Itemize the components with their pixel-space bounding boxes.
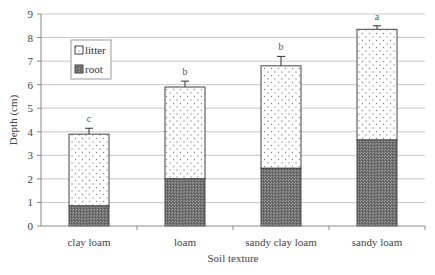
bar-root (165, 179, 205, 226)
y-tick-label: 8 (28, 32, 34, 44)
y-tick-label: 9 (28, 8, 34, 20)
x-category-label: clay loam (67, 236, 111, 248)
y-tick-label: 7 (28, 55, 34, 67)
significance-letter: b (279, 41, 284, 52)
legend-label-litter: litter (85, 44, 106, 56)
bar-root (357, 140, 397, 226)
y-tick-label: 5 (28, 102, 34, 114)
x-category-label: sandy clay loam (245, 236, 317, 248)
legend-swatch-litter (75, 46, 83, 54)
x-category-label: loam (174, 236, 196, 248)
bar-root (69, 206, 109, 226)
y-tick-label: 6 (28, 79, 34, 91)
bar-litter (261, 66, 301, 168)
bars: cbba (69, 11, 397, 226)
y-tick-label: 0 (28, 220, 34, 232)
bar-group: c (69, 113, 109, 226)
y-tick-label: 3 (28, 149, 34, 161)
y-tick-label: 2 (28, 173, 34, 185)
legend-swatch-root (75, 65, 83, 73)
significance-letter: a (375, 11, 380, 22)
bar-group: a (357, 11, 397, 226)
legend: litterroot (71, 40, 111, 79)
y-axis-title: Depth (cm) (7, 94, 20, 145)
significance-letter: b (183, 66, 188, 77)
bar-litter (165, 87, 205, 179)
y-axis: 0123456789 (28, 8, 42, 232)
legend-label-root: root (85, 63, 103, 75)
bar-litter (69, 134, 109, 206)
significance-letter: c (87, 113, 92, 124)
x-category-label: sandy loam (352, 236, 403, 248)
x-axis-title: Soil texture (207, 252, 258, 264)
y-tick-label: 1 (28, 196, 34, 208)
y-tick-label: 4 (28, 126, 34, 138)
x-axis: clay loamloamsandy clay loamsandy loam (41, 226, 425, 248)
bar-root (261, 168, 301, 226)
bar-litter (357, 29, 397, 140)
bar-group: b (165, 66, 205, 226)
stacked-bar-chart: 0123456789 cbba clay loamloamsandy clay … (0, 0, 435, 275)
bar-group: b (261, 41, 301, 226)
